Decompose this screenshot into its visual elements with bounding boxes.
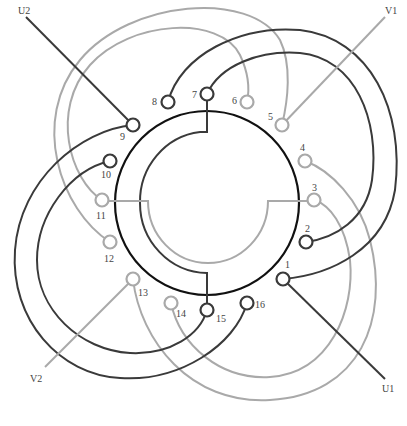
terminal-label-10: 10: [101, 169, 111, 180]
coil-11-6: [68, 28, 249, 200]
terminal-3: [308, 194, 321, 207]
terminal-5: [276, 119, 289, 132]
terminal-15: [201, 304, 214, 317]
terminal-label-11: 11: [96, 210, 106, 221]
terminal-10: [104, 155, 117, 168]
lead-label-v1: V1: [385, 5, 397, 16]
coil-12-5: [54, 8, 287, 242]
terminal-12: [104, 236, 117, 249]
terminal-11: [96, 194, 109, 207]
terminal-label-5: 5: [268, 111, 273, 122]
terminal-13: [127, 273, 140, 286]
terminal-label-16: 16: [255, 299, 265, 310]
lead-v2-line: [45, 279, 133, 367]
coil-7-2: [207, 53, 373, 242]
winding-diagram: 1 2 3 4 5 6 7 8 9 10 11 12 13 14 15 16 U…: [0, 0, 407, 426]
terminal-label-12: 12: [104, 253, 114, 264]
terminal-label-7: 7: [192, 89, 197, 100]
terminal-label-2: 2: [305, 223, 310, 234]
terminal-label-14: 14: [176, 308, 186, 319]
terminal-label-13: 13: [138, 287, 148, 298]
terminal-label-1: 1: [285, 259, 290, 270]
main-ring: [115, 111, 299, 295]
coil-14-3: [171, 200, 351, 377]
jumper-11-3: [102, 201, 314, 263]
terminal-label-15: 15: [216, 313, 226, 324]
terminal-1: [277, 273, 290, 286]
terminal-7: [201, 88, 214, 101]
lead-label-u2: U2: [18, 5, 30, 16]
coil-9-16: [15, 125, 247, 378]
lead-u2-line: [26, 17, 133, 125]
terminal-label-8: 8: [152, 96, 157, 107]
lead-label-v2: V2: [30, 373, 42, 384]
terminal-4: [299, 155, 312, 168]
coil-8-1: [168, 29, 397, 279]
terminal-label-9: 9: [120, 131, 125, 142]
terminal-label-4: 4: [300, 142, 305, 153]
terminal-8: [162, 96, 175, 109]
terminal-6: [241, 96, 254, 109]
terminal-label-3: 3: [312, 182, 317, 193]
terminal-9: [127, 119, 140, 132]
terminal-label-6: 6: [232, 95, 237, 106]
terminal-16: [241, 297, 254, 310]
lead-label-u1: U1: [382, 383, 394, 394]
terminal-2: [300, 236, 313, 249]
